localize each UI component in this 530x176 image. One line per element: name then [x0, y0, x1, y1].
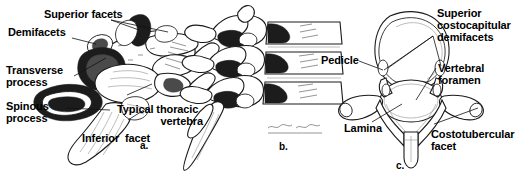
label-typical-thoracic-vertebra-line2: vertebra — [117, 115, 203, 127]
label-spinous-process-line1: Spinous — [6, 100, 49, 112]
panel-letter-c: c. — [396, 160, 404, 171]
label-transverse-process-line1: Transverse — [6, 64, 63, 76]
label-costotubercular-facet-line2: facet — [431, 140, 456, 152]
label-demifacets: Demifacets — [8, 26, 66, 38]
label-typical-thoracic-vertebra-line1: Typical thoracic — [117, 103, 198, 115]
label-superior-costocapitular-demifacets-line2: costocapitular — [437, 19, 511, 31]
label-superior-costocapitular-demifacets-line3: demifacets — [437, 31, 493, 43]
anatomy-figure: Superior facets Demifacets Transverse pr… — [0, 0, 530, 176]
label-superior-facets: Superior facets — [44, 8, 123, 20]
panel-letter-a: a. — [140, 140, 148, 151]
label-spinous-process-line2: process — [6, 112, 48, 124]
label-superior-costocapitular-demifacets-line1: Superior — [437, 7, 481, 19]
label-vertebral-foramen-line1: Vertebral — [438, 62, 484, 74]
label-vertebral-foramen-line2: foramen — [438, 74, 481, 86]
label-costotubercular-facet-line1: Costotubercular — [431, 128, 514, 140]
label-lamina: Lamina — [344, 122, 382, 134]
label-transverse-process-line2: process — [6, 76, 48, 88]
label-pedicle: Pedicle — [321, 54, 359, 66]
panel-letter-b: b. — [279, 141, 288, 152]
panel-b-illustration — [180, 6, 343, 171]
